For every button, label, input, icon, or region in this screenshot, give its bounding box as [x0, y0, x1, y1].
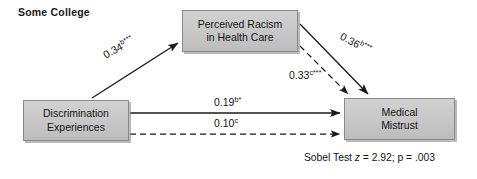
node-perceived-racism[interactable]: Perceived Racism in Health Care — [182, 10, 298, 52]
node-discrimination-experiences[interactable]: Discrimination Experiences — [23, 100, 129, 141]
path-coefficient-e: 0.10c — [214, 117, 238, 129]
path-coefficient-c: 0.33c*** — [289, 69, 321, 81]
edge-mediator-to-outcome-solid — [300, 24, 368, 94]
sobel-test-z-value: = 2.92; p = .003 — [360, 152, 435, 163]
node-discrimination-experiences-label: Discrimination Experiences — [43, 107, 109, 134]
path-coefficient-c-superscript: c*** — [309, 68, 321, 77]
node-medical-mistrust[interactable]: Medical Mistrust — [344, 98, 455, 140]
sobel-test-result: Sobel Test z = 2.92; p = .003 — [304, 152, 435, 163]
node-perceived-racism-label: Perceived Racism in Health Care — [198, 18, 283, 45]
path-coefficient-d-value: 0.19 — [214, 96, 234, 108]
path-coefficient-d-superscript: b* — [234, 95, 241, 104]
sobel-test-name: Sobel Test — [304, 152, 352, 163]
path-coefficient-d: 0.19b* — [214, 96, 241, 108]
node-medical-mistrust-label: Medical Mistrust — [381, 106, 418, 133]
path-coefficient-e-superscript: c — [234, 116, 238, 125]
path-diagram-canvas: Some College Perceived Racism in Health … — [0, 0, 477, 179]
path-coefficient-e-value: 0.10 — [214, 117, 234, 129]
path-coefficient-c-value: 0.33 — [289, 69, 309, 81]
